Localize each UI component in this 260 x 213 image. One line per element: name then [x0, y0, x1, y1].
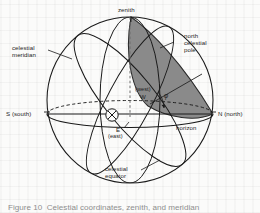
- observer-marker: [106, 109, 118, 121]
- label-latitude-angle: φ: [164, 92, 168, 99]
- label-celestial-meridian: celestial meridian: [12, 44, 36, 58]
- label-horizon: horizon: [176, 124, 196, 131]
- label-west: W: [140, 93, 146, 100]
- label-north: N (north): [218, 110, 243, 117]
- label-west-paren: (west): [135, 86, 151, 93]
- leader-celestial-meridian: [48, 50, 72, 59]
- figure-container: zenith celestial meridian north celestia…: [0, 0, 260, 213]
- label-north-celestial-pole: north celestial pole: [184, 32, 207, 54]
- label-celestial-equator: celestial equator: [105, 165, 128, 179]
- label-zenith: zenith: [118, 6, 135, 13]
- label-south: S (south): [6, 110, 31, 117]
- figure-caption: Figure 10 Celestial coordinates, zenith,…: [8, 203, 199, 212]
- label-east-paren: (east): [108, 133, 123, 140]
- celestial-sphere-figure: [0, 0, 260, 213]
